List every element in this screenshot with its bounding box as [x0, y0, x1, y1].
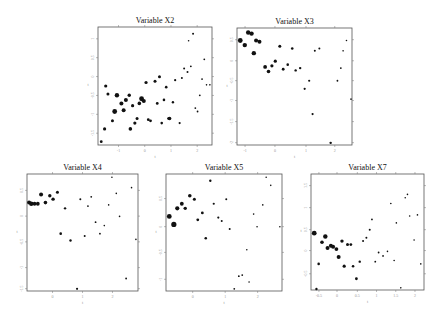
- y-tick-label: 1: [90, 38, 95, 40]
- x-tick-label: 0: [52, 294, 54, 299]
- plot-frame: [237, 28, 352, 145]
- x-tick-label: 1: [376, 293, 378, 298]
- panel-variable-x2: Variable X2-1012t10.50-0.5-1-1.5t: [87, 16, 214, 159]
- data-point: [246, 249, 248, 251]
- panel-variable-x7: Variable X7-0.500.511.52t1.510.50-0.5t: [300, 163, 426, 304]
- data-point: [138, 102, 142, 106]
- data-point: [262, 204, 264, 206]
- data-point: [404, 197, 406, 199]
- data-point: [111, 119, 114, 122]
- data-point: [265, 177, 267, 179]
- x-tick-label: 0: [336, 293, 338, 298]
- panel-variable-x5: Variable X5012t0.50-0.5-1t: [155, 163, 284, 305]
- data-point: [229, 228, 231, 230]
- data-point: [278, 45, 281, 48]
- data-point: [188, 40, 190, 42]
- plot-frame: [27, 174, 138, 291]
- data-point: [221, 220, 223, 222]
- data-point: [59, 232, 62, 235]
- y-tick-label: -1: [90, 113, 95, 116]
- data-point: [279, 226, 281, 228]
- data-point: [48, 194, 51, 197]
- x-tick-label: 2: [334, 148, 336, 153]
- x-tick-label: -1: [243, 148, 246, 153]
- x-tick-label: 0: [274, 148, 276, 153]
- data-point: [196, 218, 199, 221]
- y-tick-label: -0.5: [19, 239, 24, 245]
- data-point: [393, 260, 395, 262]
- data-point: [352, 265, 355, 268]
- data-point: [69, 239, 71, 241]
- plot-frame: [166, 174, 282, 291]
- data-point: [342, 50, 344, 52]
- data-point: [174, 79, 176, 81]
- data-point: [413, 239, 415, 241]
- data-point: [378, 252, 380, 254]
- x-tick-label: 2: [111, 294, 113, 299]
- x-axis-label: t: [223, 300, 225, 305]
- y-tick-label: -0.5: [90, 92, 95, 98]
- data-point: [257, 40, 261, 44]
- data-point: [144, 81, 147, 84]
- data-point: [362, 240, 364, 242]
- data-point: [79, 198, 81, 200]
- x-tick-label: 0.5: [355, 293, 360, 298]
- data-point: [154, 80, 157, 83]
- panel-title: Variable X2: [136, 16, 174, 25]
- data-point: [181, 77, 183, 79]
- data-point: [124, 98, 128, 102]
- data-point: [308, 80, 310, 82]
- data-point: [248, 281, 250, 283]
- y-axis-label: t: [87, 82, 89, 87]
- y-tick-label: 0: [229, 60, 234, 62]
- data-point: [409, 215, 411, 217]
- data-point: [253, 213, 255, 215]
- panel-title: Variable X4: [63, 163, 101, 172]
- data-point: [213, 203, 215, 205]
- data-point: [39, 193, 43, 197]
- data-point: [304, 88, 306, 90]
- data-point: [125, 278, 127, 280]
- data-point: [346, 243, 349, 246]
- data-point: [355, 277, 358, 280]
- data-point: [217, 216, 219, 218]
- data-point: [396, 222, 398, 224]
- data-point: [122, 108, 126, 112]
- y-tick-label: -0.5: [229, 77, 234, 83]
- data-point: [318, 48, 320, 50]
- data-point: [131, 187, 133, 189]
- data-point: [175, 206, 179, 210]
- data-point: [233, 288, 235, 290]
- plot-frame: [311, 174, 424, 290]
- data-point: [282, 68, 285, 71]
- data-point: [131, 104, 134, 107]
- data-point: [156, 102, 159, 105]
- data-point: [104, 84, 107, 87]
- data-point: [400, 287, 402, 289]
- data-point: [420, 263, 422, 265]
- data-point: [371, 219, 373, 221]
- data-point: [188, 194, 192, 198]
- x-tick-label: 1: [224, 294, 226, 299]
- data-point: [350, 98, 352, 100]
- data-point: [270, 64, 273, 67]
- data-point: [335, 247, 339, 251]
- panel-variable-x4: Variable X4012t0.50-0.5-1-1.5t: [16, 163, 140, 305]
- data-point: [340, 239, 343, 242]
- y-tick-label: 0.5: [19, 188, 24, 193]
- data-point: [90, 196, 92, 198]
- data-point: [87, 205, 89, 207]
- data-point: [238, 275, 240, 277]
- y-tick-label: -0.5: [303, 271, 308, 277]
- data-point: [158, 75, 161, 78]
- y-tick-label: 0.5: [303, 227, 308, 232]
- data-point: [115, 193, 117, 195]
- data-point: [184, 207, 187, 210]
- data-point: [317, 263, 320, 266]
- data-point: [183, 68, 185, 70]
- data-point: [256, 226, 258, 228]
- data-point: [407, 194, 409, 196]
- data-point: [172, 101, 174, 103]
- data-point: [115, 93, 119, 97]
- x-tick-label: -0.5: [316, 293, 322, 298]
